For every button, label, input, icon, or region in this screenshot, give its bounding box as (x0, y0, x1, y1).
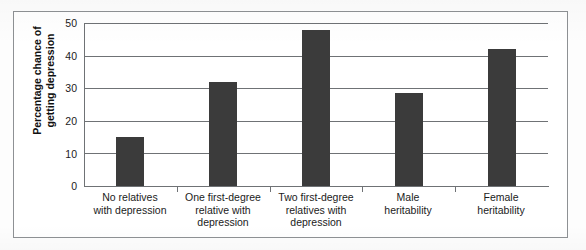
x-label-line: depression (197, 216, 248, 228)
x-category-label-male-heritability: Male heritability (362, 191, 454, 216)
y-tick-label-20: 20 (51, 116, 77, 126)
plot-area (84, 23, 548, 186)
bar-no-relatives-with-depression (116, 137, 144, 186)
x-category-label-one-first-degree-relative-with-depression: One first-degree relative with depressio… (177, 191, 269, 229)
x-label-line: heritability (477, 204, 524, 216)
x-axis-line (84, 186, 549, 187)
y-tick-label-40: 40 (51, 51, 77, 61)
x-category-label-no-relatives-with-depression: No relatives with depression (84, 191, 176, 216)
figure-canvas: Percentage chance of getting depression … (0, 0, 586, 250)
x-label-line: depression (290, 216, 341, 228)
bar-two-first-degree-relatives-with-depression (302, 30, 330, 186)
x-label-line: heritability (384, 204, 431, 216)
y-tick-label-10: 10 (51, 149, 77, 159)
x-label-line: One first-degree (185, 191, 261, 203)
x-label-line: with depression (94, 204, 167, 216)
y-axis-title-line-1: Percentage chance of (31, 26, 43, 135)
x-label-line: relative with (195, 204, 250, 216)
x-label-line: Male (397, 191, 420, 203)
x-label-line: relatives with (286, 204, 347, 216)
x-category-label-two-first-degree-relatives-with-depression: Two first-degree relatives with depressi… (270, 191, 362, 229)
y-tick-label-50: 50 (51, 18, 77, 28)
y-axis-tick-labels: 50 40 30 20 10 0 (47, 0, 77, 250)
bar-one-first-degree-relative-with-depression (209, 82, 237, 186)
y-tick-label-0: 0 (51, 181, 77, 191)
gridline-50 (84, 23, 548, 24)
bar-male-heritability (395, 93, 423, 186)
y-tick-label-30: 30 (51, 83, 77, 93)
x-label-line: Female (483, 191, 518, 203)
x-label-line: Two first-degree (278, 191, 353, 203)
x-category-label-female-heritability: Female heritability (455, 191, 547, 216)
x-label-line: No relatives (102, 191, 157, 203)
bar-female-heritability (488, 49, 516, 186)
